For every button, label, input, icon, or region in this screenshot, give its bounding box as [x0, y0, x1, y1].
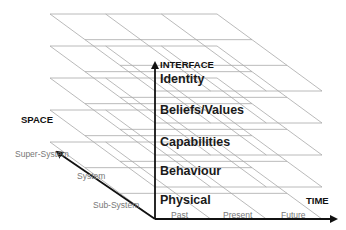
- interface-axis-title: INTERFACE: [160, 60, 214, 70]
- layer-label-identity: Identity: [160, 73, 204, 86]
- time-axis-title: TIME: [306, 196, 329, 206]
- layer-label-beliefs-values: Beliefs/Values: [160, 104, 244, 117]
- grid-column-line: [161, 142, 266, 219]
- space-level-system: System: [77, 172, 105, 181]
- grid-column-line: [50, 14, 155, 91]
- grid-column-line: [217, 110, 322, 187]
- time-level-past: Past: [171, 211, 188, 220]
- grid-column-line: [50, 46, 155, 123]
- space-level-sub-system: Sub-System: [93, 201, 139, 210]
- layer-label-behaviour: Behaviour: [160, 165, 221, 178]
- layer-label-capabilities: Capabilities: [160, 136, 230, 149]
- grid-column-line: [50, 78, 155, 155]
- time-level-future: Future: [281, 211, 306, 220]
- grid-column-line: [217, 14, 322, 91]
- space-level-super-system: Super-System: [15, 150, 69, 159]
- layer-label-physical: Physical: [160, 194, 211, 207]
- space-axis-title: SPACE: [21, 115, 53, 125]
- grid-column-line: [217, 142, 322, 219]
- time-level-present: Present: [223, 211, 252, 220]
